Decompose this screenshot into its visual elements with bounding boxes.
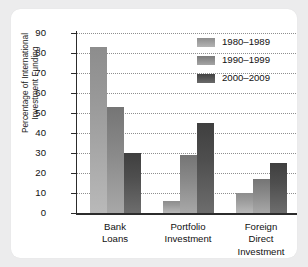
legend-item: 2000–2009 bbox=[197, 70, 293, 86]
legend-swatch-icon bbox=[197, 74, 215, 83]
chart-legend: 1980–19891990–19992000–2009 bbox=[197, 34, 293, 88]
y-axis-tick-label: 30 bbox=[20, 148, 46, 158]
y-axis-tick-label: 20 bbox=[20, 168, 46, 178]
y-axis-tick-label: 80 bbox=[20, 48, 46, 58]
bar bbox=[236, 193, 253, 213]
y-axis-tick-label: 50 bbox=[20, 108, 46, 118]
legend-item-label: 1980–1989 bbox=[222, 37, 270, 47]
bar bbox=[253, 179, 270, 213]
legend-item-label: 2000–2009 bbox=[222, 73, 270, 83]
bar-chart-figure: Percentage of International Investment F… bbox=[11, 9, 297, 258]
legend-swatch-icon bbox=[197, 38, 215, 47]
bar bbox=[270, 163, 287, 213]
y-axis-tick-label: 0 bbox=[20, 208, 46, 218]
y-axis-tick-label: 10 bbox=[20, 188, 46, 198]
legend-item: 1990–1999 bbox=[197, 52, 293, 68]
legend-swatch-icon bbox=[197, 56, 215, 65]
y-axis-tick-label: 90 bbox=[20, 28, 46, 38]
y-axis-tick-label: 70 bbox=[20, 68, 46, 78]
chart-card: Percentage of International Investment F… bbox=[11, 9, 297, 258]
y-axis-tick-label: 40 bbox=[20, 128, 46, 138]
x-axis-line bbox=[76, 213, 297, 215]
y-axis-tick-label: 60 bbox=[20, 88, 46, 98]
legend-item-label: 1990–1999 bbox=[222, 55, 270, 65]
x-axis-category-label: Foreign Direct Investment bbox=[216, 221, 306, 258]
legend-item: 1980–1989 bbox=[197, 34, 293, 50]
